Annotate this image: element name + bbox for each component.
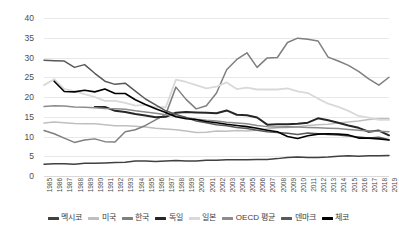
x-tick-label: 1988 xyxy=(78,178,85,192)
x-tick-label: 1985 xyxy=(47,178,54,192)
y-tick-label: 30 xyxy=(25,53,34,62)
x-tick-label: 2014 xyxy=(341,178,348,192)
series-line-덴마크 xyxy=(44,60,389,139)
legend-item-덴마크[interactable]: 덴마크 xyxy=(281,214,316,222)
plot-area xyxy=(44,18,389,176)
y-tick-label: 0 xyxy=(29,172,34,181)
legend-swatch-icon xyxy=(48,217,59,220)
y-tick-label: 40 xyxy=(25,14,34,23)
chart-legend: 멕시코미국한국독일일본OECD 평균덴마크체코 xyxy=(0,214,397,222)
y-tick-label: 10 xyxy=(25,132,34,141)
x-tick-label: 2015 xyxy=(352,178,359,192)
x-tick-label: 1992 xyxy=(118,178,125,192)
x-tick-label: 1986 xyxy=(57,178,64,192)
x-axis: 1985198619871988198919901991199219931994… xyxy=(44,178,389,208)
x-tick-label: 2001 xyxy=(210,178,217,192)
y-tick-label: 35 xyxy=(25,34,34,43)
x-tick-label: 1998 xyxy=(179,178,186,192)
y-tick-label: 5 xyxy=(29,152,34,161)
x-tick-label: 2011 xyxy=(311,178,318,192)
x-tick-label: 2007 xyxy=(270,178,277,192)
legend-label: 미국 xyxy=(102,214,116,222)
legend-label: OECD 평균 xyxy=(236,214,275,222)
legend-item-멕시코[interactable]: 멕시코 xyxy=(48,214,83,222)
y-tick-label: 25 xyxy=(25,73,34,82)
legend-label: 체코 xyxy=(335,214,349,222)
x-tick-label: 2004 xyxy=(240,178,247,192)
legend-swatch-icon xyxy=(189,217,200,220)
legend-item-OECD 평균[interactable]: OECD 평균 xyxy=(222,214,275,222)
legend-label: 한국 xyxy=(135,214,149,222)
legend-swatch-icon xyxy=(322,217,333,220)
series-line-OECD 평균 xyxy=(44,106,389,132)
legend-item-일본[interactable]: 일본 xyxy=(189,214,217,222)
series-line-멕시코 xyxy=(44,155,389,164)
x-tick-label: 1999 xyxy=(189,178,196,192)
x-tick-label: 1996 xyxy=(159,178,166,192)
x-tick-label: 1997 xyxy=(169,178,176,192)
series-layer xyxy=(44,18,389,176)
legend-item-미국[interactable]: 미국 xyxy=(88,214,116,222)
x-tick-label: 1990 xyxy=(98,178,105,192)
x-tick-label: 2010 xyxy=(301,178,308,192)
x-tick-label: 2009 xyxy=(291,178,298,192)
x-tick-label: 2013 xyxy=(331,178,338,192)
legend-label: 멕시코 xyxy=(61,214,82,222)
legend-item-독일[interactable]: 독일 xyxy=(155,214,183,222)
x-tick-label: 2018 xyxy=(382,178,389,192)
legend-swatch-icon xyxy=(155,217,166,220)
legend-item-체코[interactable]: 체코 xyxy=(322,214,350,222)
x-tick-label: 1995 xyxy=(149,178,156,192)
x-tick-label: 2012 xyxy=(321,178,328,192)
x-tick-label: 2003 xyxy=(230,178,237,192)
legend-label: 덴마크 xyxy=(295,214,316,222)
y-axis: 4035302520151050 xyxy=(0,18,40,176)
legend-item-한국[interactable]: 한국 xyxy=(122,214,150,222)
legend-swatch-icon xyxy=(88,217,99,220)
x-tick-label: 2002 xyxy=(220,178,227,192)
series-line-한국 xyxy=(44,38,389,142)
legend-label: 독일 xyxy=(169,214,183,222)
legend-swatch-icon xyxy=(281,217,292,220)
x-tick-label: 1991 xyxy=(108,178,115,192)
legend-swatch-icon xyxy=(122,217,133,220)
x-tick-label: 2016 xyxy=(362,178,369,192)
x-tick-label: 1987 xyxy=(67,178,74,192)
x-tick-label: 1989 xyxy=(88,178,95,192)
y-tick-label: 20 xyxy=(25,93,34,102)
y-tick-label: 15 xyxy=(25,113,34,122)
x-tick-label: 1993 xyxy=(128,178,135,192)
x-tick-label: 2006 xyxy=(260,178,267,192)
gridline-0 xyxy=(44,176,389,177)
x-tick-label: 2008 xyxy=(281,178,288,192)
x-tick-label: 2019 xyxy=(392,178,399,192)
legend-swatch-icon xyxy=(222,217,233,220)
x-tick-label: 2005 xyxy=(250,178,257,192)
x-tick-label: 2017 xyxy=(372,178,379,192)
legend-label: 일본 xyxy=(202,214,216,222)
x-tick-label: 2000 xyxy=(199,178,206,192)
x-tick-label: 1994 xyxy=(139,178,146,192)
